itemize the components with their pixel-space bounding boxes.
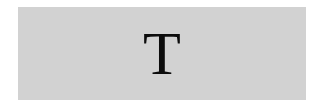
letter-tile: T: [18, 7, 306, 100]
letter-glyph: T: [143, 22, 181, 84]
